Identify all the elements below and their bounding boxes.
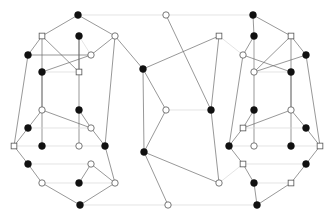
graph-edge	[166, 15, 211, 110]
graph-node-hollow[interactable]	[216, 180, 222, 186]
graph-edge	[143, 69, 144, 152]
graph-node-hollow[interactable]	[317, 143, 323, 149]
graph-node-filled[interactable]	[76, 180, 83, 187]
graph-node-filled[interactable]	[208, 107, 215, 114]
graph-node-hollow[interactable]	[88, 52, 94, 58]
graph-node-hollow[interactable]	[112, 180, 118, 186]
graph-node-filled[interactable]	[25, 52, 32, 59]
graph-node-hollow[interactable]	[76, 69, 82, 75]
graph-node-hollow[interactable]	[216, 33, 222, 39]
graph-edge	[229, 55, 243, 146]
graph-node-hollow[interactable]	[288, 180, 294, 186]
graph-node-hollow[interactable]	[251, 143, 257, 149]
graph-edge	[42, 110, 91, 128]
graph-edge	[254, 55, 306, 72]
graph-edge	[306, 55, 320, 146]
graph-edge	[143, 36, 219, 69]
graph-edge	[91, 36, 115, 55]
graph-node-hollow[interactable]	[88, 161, 94, 167]
graph-node-filled[interactable]	[75, 12, 82, 19]
graph-node-hollow[interactable]	[251, 69, 257, 75]
graph-node-hollow[interactable]	[163, 107, 169, 113]
graph-node-hollow[interactable]	[76, 143, 82, 149]
graph-edge	[42, 15, 78, 36]
graph-edge	[42, 183, 80, 205]
graph-node-hollow[interactable]	[240, 125, 246, 131]
graph-node-filled[interactable]	[303, 52, 310, 59]
graph-edge	[42, 36, 79, 72]
graph-edge	[219, 164, 243, 183]
graph-node-filled[interactable]	[140, 66, 147, 73]
graph-edge	[80, 183, 115, 205]
graph-node-filled[interactable]	[251, 107, 258, 114]
graph-node-hollow[interactable]	[163, 12, 169, 18]
graph-node-filled[interactable]	[226, 143, 233, 150]
graph-edge	[254, 36, 291, 72]
graph-node-filled[interactable]	[251, 180, 258, 187]
graph-node-filled[interactable]	[76, 107, 83, 114]
graph-node-filled[interactable]	[288, 143, 295, 150]
graph-node-filled[interactable]	[77, 202, 84, 209]
graph-node-filled[interactable]	[102, 143, 109, 150]
graph-node-hollow[interactable]	[288, 33, 294, 39]
graph-edge	[243, 110, 291, 128]
graph-edge	[143, 69, 166, 110]
graph-node-filled[interactable]	[250, 12, 257, 19]
graph-edge	[105, 36, 115, 146]
graph-edge	[257, 183, 291, 205]
graph-node-filled[interactable]	[303, 125, 310, 132]
graph-node-filled[interactable]	[25, 161, 32, 168]
graph-edge	[78, 15, 115, 36]
graph-node-hollow[interactable]	[165, 202, 171, 208]
graph-node-hollow[interactable]	[39, 33, 45, 39]
graph-edge	[144, 152, 219, 183]
graph-node-filled[interactable]	[141, 149, 148, 156]
graph-edge	[211, 36, 219, 110]
graph-edge	[243, 55, 291, 72]
graph-edge	[211, 110, 219, 183]
graph-node-filled[interactable]	[25, 125, 32, 132]
graph-node-hollow[interactable]	[240, 161, 246, 167]
graph-node-filled[interactable]	[288, 69, 295, 76]
graph-edge	[91, 164, 115, 183]
graph-node-hollow[interactable]	[288, 107, 294, 113]
graph-node-filled[interactable]	[303, 161, 310, 168]
graph-svg	[0, 0, 333, 219]
graph-edge	[105, 146, 115, 183]
diagram-canvas	[0, 0, 333, 219]
graph-node-hollow[interactable]	[88, 125, 94, 131]
graph-node-hollow[interactable]	[39, 107, 45, 113]
graph-node-hollow[interactable]	[240, 52, 246, 58]
graph-node-filled[interactable]	[39, 69, 46, 76]
graph-edge	[219, 36, 243, 55]
graph-node-hollow[interactable]	[39, 180, 45, 186]
graph-edge	[115, 36, 143, 69]
graph-node-hollow[interactable]	[112, 33, 118, 39]
graph-node-filled[interactable]	[76, 33, 83, 40]
graph-node-filled[interactable]	[251, 33, 258, 40]
graph-edge	[253, 15, 291, 36]
graph-node-filled[interactable]	[39, 143, 46, 150]
graph-node-hollow[interactable]	[11, 143, 17, 149]
node-layer	[11, 12, 323, 209]
graph-node-filled[interactable]	[254, 202, 261, 209]
graph-edge	[144, 110, 166, 152]
graph-edge	[144, 152, 168, 205]
graph-edge	[42, 55, 91, 72]
graph-edge	[14, 55, 28, 146]
